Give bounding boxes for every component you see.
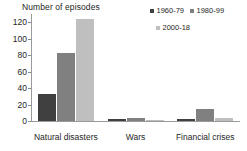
x-axis-label-cell: Natural disasters (31, 126, 101, 144)
y-axis-tick-label: 40 (18, 83, 27, 93)
legend-swatch-icon (190, 9, 194, 13)
bar-group (31, 14, 101, 121)
bar-group (101, 14, 171, 121)
y-axis-tick-label: 0 (22, 116, 27, 126)
bar[interactable] (146, 120, 164, 121)
y-axis-tick (28, 55, 31, 56)
legend-swatch-icon (150, 9, 154, 13)
bar[interactable] (57, 53, 75, 121)
bar-group (170, 14, 240, 121)
bar[interactable] (127, 118, 145, 121)
x-axis-category-label: Financial crises (176, 132, 235, 142)
bar[interactable] (177, 119, 195, 121)
x-axis-label-cell: Wars (101, 126, 171, 144)
x-axis-category-label: Natural disasters (34, 132, 98, 142)
y-axis-tick-label: 100 (13, 34, 27, 44)
y-axis-tick-label: 120 (13, 17, 27, 27)
y-axis-tick-label: 80 (18, 50, 27, 60)
bar-groups (31, 14, 240, 121)
x-axis-label-cell: Financial crises (170, 126, 240, 144)
bar[interactable] (76, 19, 94, 121)
y-axis-tick (28, 105, 31, 106)
bar[interactable] (108, 119, 126, 121)
bar-chart: Number of episodes 1960-79 1980-99 2000-… (0, 0, 247, 151)
y-axis-tick-label: 60 (18, 67, 27, 77)
y-axis-tick (28, 22, 31, 23)
y-axis-tick (28, 39, 31, 40)
bar[interactable] (38, 94, 56, 121)
bar[interactable] (196, 109, 214, 121)
chart-axis-title: Number of episodes (22, 2, 100, 12)
x-axis-category-label: Wars (126, 132, 146, 142)
x-axis-labels: Natural disastersWarsFinancial crises (31, 126, 240, 144)
y-axis-tick (28, 88, 31, 89)
y-axis-labels: 020406080100120 (0, 14, 29, 121)
y-axis-tick (28, 72, 31, 73)
y-axis-tick (28, 121, 31, 122)
y-axis-tick-label: 20 (18, 100, 27, 110)
bar[interactable] (215, 118, 233, 121)
